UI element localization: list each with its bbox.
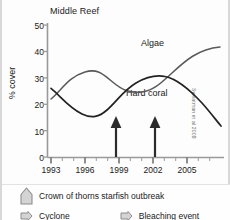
legend: Crown of thorns starfish outbreak Cyclon…: [2, 184, 230, 220]
figure-container: Middle Reef % cover 50 40 30 20 10 0 199…: [0, 0, 230, 220]
arrow-right-gray-icon: [20, 211, 33, 220]
arrow-up-gray-icon: [20, 187, 33, 205]
series-curve-hard-coral: [51, 76, 221, 126]
event-arrow-2002: [150, 116, 161, 157]
legend-label-crown-of-thorns: Crown of thorns starfish outbreak: [39, 191, 164, 201]
event-arrow-1998: [111, 116, 122, 157]
series-curve-algae: [51, 47, 220, 99]
plot-area: [2, 0, 230, 184]
legend-row-secondary: Cyclone Bleaching event: [20, 211, 225, 220]
legend-item-bleaching-event: Bleaching event: [120, 211, 200, 220]
legend-item-crown-of-thorns: Crown of thorns starfish outbreak: [20, 187, 164, 205]
legend-label-cyclone: Cyclone: [39, 211, 70, 220]
x-axis-major-ticks: [51, 158, 187, 164]
legend-label-bleaching-event: Bleaching event: [139, 211, 200, 220]
arrow-right-gray-icon-2: [120, 211, 133, 220]
chart-panel: Middle Reef % cover 50 40 30 20 10 0 199…: [2, 0, 230, 184]
